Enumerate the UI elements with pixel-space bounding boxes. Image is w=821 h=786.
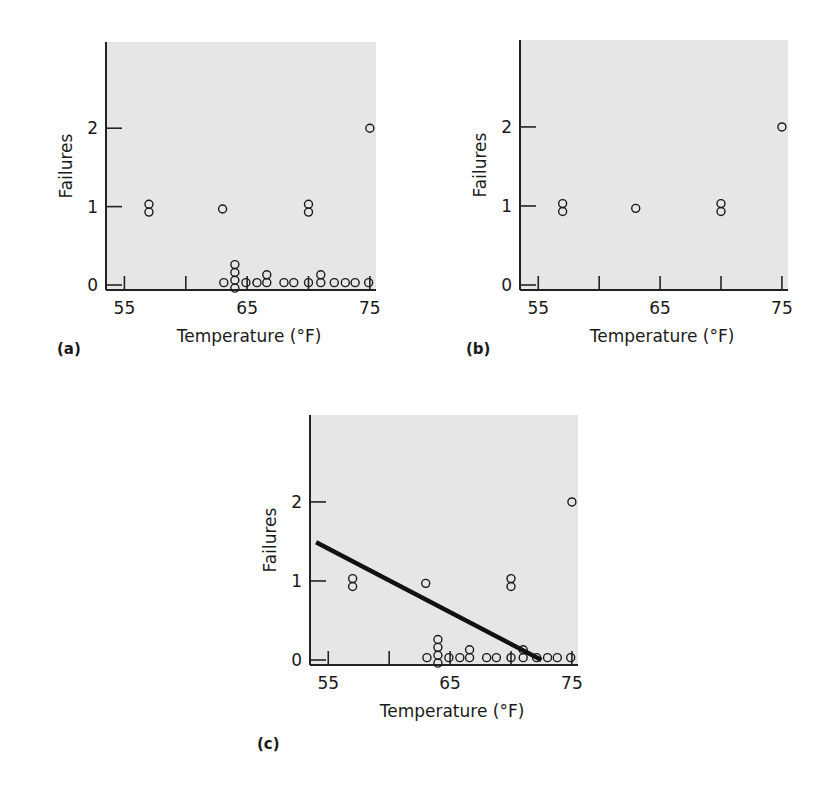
panel-b: 556575012Temperature (°F)Failures (b): [410, 0, 821, 380]
y-tick-label: 0: [87, 275, 98, 295]
y-axis-label: Failures: [470, 132, 490, 197]
y-tick-label: 0: [291, 650, 302, 670]
x-axis-label: Temperature (°F): [176, 326, 322, 346]
panel-label-b: (b): [466, 340, 490, 358]
y-tick-label: 1: [501, 196, 512, 216]
x-tick-label: 65: [649, 298, 671, 318]
panel-c: 556575012Temperature (°F)Failures (c): [200, 390, 620, 786]
y-tick-label: 2: [291, 492, 302, 512]
plot-area: [106, 42, 376, 290]
panel-a: 556575012Temperature (°F)Failures (a): [0, 0, 410, 380]
x-tick-label: 55: [114, 298, 136, 318]
y-axis-label: Failures: [56, 133, 76, 198]
panel-label-a: (a): [57, 340, 81, 358]
plot-area: [310, 415, 578, 665]
y-axis-label: Failures: [260, 507, 280, 572]
x-axis-label: Temperature (°F): [379, 701, 525, 721]
y-tick-label: 1: [291, 571, 302, 591]
x-tick-label: 55: [527, 298, 549, 318]
plot-area: [520, 40, 788, 290]
x-tick-label: 75: [771, 298, 793, 318]
chart-b: 556575012Temperature (°F)Failures: [410, 0, 821, 380]
chart-a: 556575012Temperature (°F)Failures: [0, 0, 410, 380]
x-axis-label: Temperature (°F): [589, 326, 735, 346]
y-tick-label: 0: [501, 275, 512, 295]
x-tick-label: 65: [439, 673, 461, 693]
y-tick-label: 1: [87, 197, 98, 217]
x-tick-label: 65: [236, 298, 258, 318]
chart-c: 556575012Temperature (°F)Failures: [200, 390, 620, 786]
x-tick-label: 75: [561, 673, 583, 693]
panel-label-c: (c): [257, 735, 280, 753]
y-tick-label: 2: [87, 118, 98, 138]
y-tick-label: 2: [501, 117, 512, 137]
x-tick-label: 75: [359, 298, 381, 318]
x-tick-label: 55: [317, 673, 339, 693]
